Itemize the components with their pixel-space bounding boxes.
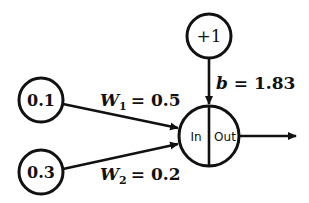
neuron-in-label: In: [190, 130, 201, 144]
input-node-2: 0.3: [19, 150, 63, 194]
weight-1-label: W1= 0.5: [100, 90, 181, 113]
bias-weight-label: b = 1.83: [216, 73, 295, 93]
neuron-out-label: Out: [214, 130, 236, 144]
bias-node: +1: [187, 14, 231, 58]
neuron-diagram: +1 0.1 0.3 In Out b = 1.83 W1= 0.5 W2= 0…: [0, 0, 309, 203]
neuron-node: In Out: [179, 106, 239, 166]
input-node-2-value: 0.3: [27, 163, 55, 182]
input-node-1-value: 0.1: [27, 91, 55, 110]
weight-2-label: W2= 0.2: [100, 164, 181, 187]
input-node-1: 0.1: [19, 78, 63, 122]
bias-node-label: +1: [196, 26, 221, 46]
